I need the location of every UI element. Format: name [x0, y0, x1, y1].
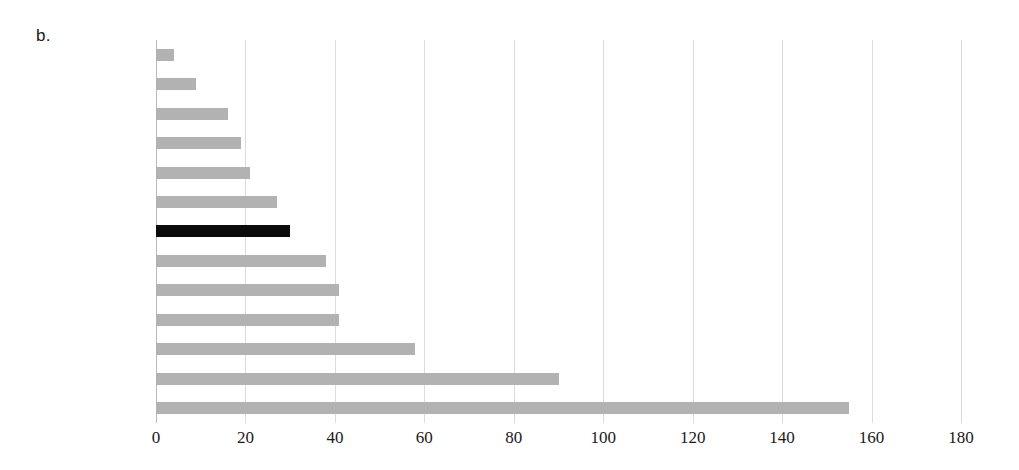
- bar-row: [156, 128, 961, 157]
- plot-area: [156, 40, 961, 423]
- bar-row: [156, 335, 961, 364]
- gridline-180: [961, 40, 962, 423]
- panel-letter: b.: [36, 26, 51, 46]
- x-tick-40: 40: [326, 428, 343, 448]
- bar-row: [156, 276, 961, 305]
- bar-malta: [156, 78, 196, 90]
- bar-italy: [156, 108, 228, 120]
- x-axis-tick-labels: 020406080100120140160180: [156, 428, 961, 458]
- x-tick-60: 60: [416, 428, 433, 448]
- bar-germany: [156, 402, 849, 414]
- bar-austria: [156, 196, 277, 208]
- bar-greece: [156, 225, 290, 237]
- bar-row: [156, 217, 961, 246]
- bar-row: [156, 69, 961, 98]
- bar-row: [156, 158, 961, 187]
- bar-ireland: [156, 49, 174, 61]
- bar-series: [156, 40, 961, 423]
- bar-row: [156, 364, 961, 393]
- bar-row: [156, 394, 961, 423]
- x-tick-80: 80: [505, 428, 522, 448]
- bar-row: [156, 40, 961, 69]
- bar-portugal: [156, 137, 241, 149]
- bar-spain: [156, 314, 339, 326]
- x-tick-140: 140: [769, 428, 795, 448]
- bar-row: [156, 99, 961, 128]
- bar-netherlands: [156, 167, 250, 179]
- bar-france: [156, 343, 415, 355]
- x-tick-160: 160: [859, 428, 885, 448]
- bar-finland: [156, 373, 559, 385]
- figure-panel-b: b. IrelandMaltaItalyPortugalNetherlandsA…: [0, 0, 1019, 470]
- x-tick-100: 100: [590, 428, 616, 448]
- x-tick-180: 180: [948, 428, 974, 448]
- bar-row: [156, 246, 961, 275]
- x-tick-120: 120: [680, 428, 706, 448]
- bar-belgium: [156, 284, 339, 296]
- x-tick-0: 0: [152, 428, 161, 448]
- bar-luxembourg: [156, 255, 326, 267]
- bar-row: [156, 187, 961, 216]
- bar-row: [156, 305, 961, 334]
- x-tick-20: 20: [237, 428, 254, 448]
